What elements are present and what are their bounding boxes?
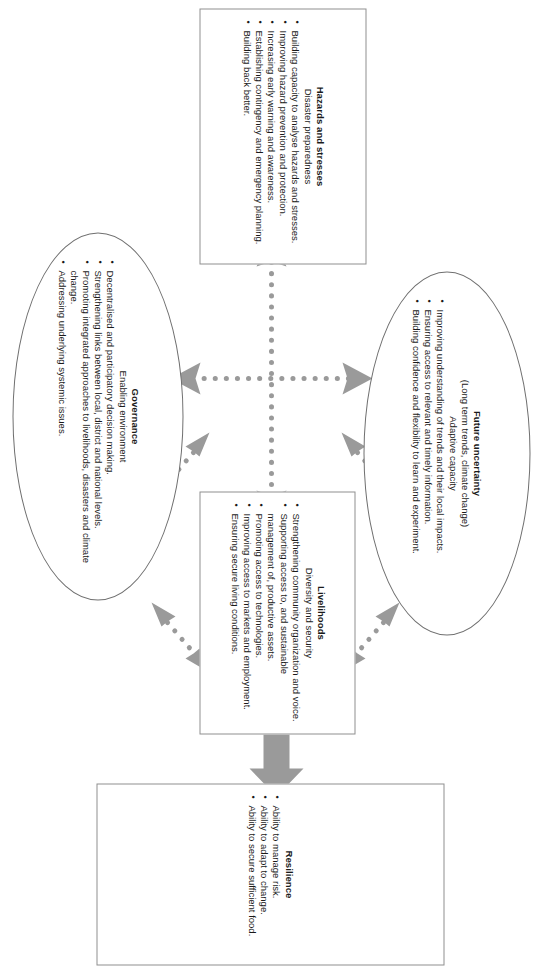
node-future-uncertainty[interactable]: Future uncertainty (Long term trends, cl… <box>363 271 530 635</box>
list-item: Establishing contingency and emergency p… <box>252 19 264 253</box>
list-item: Strengthening links between local, distr… <box>91 259 103 573</box>
list-item: Improving access to markets and employme… <box>240 502 252 723</box>
node-resilience[interactable]: Resilience Ability to manage risk. Abili… <box>96 783 444 965</box>
list-item: Promoting access to technologies. <box>252 502 264 723</box>
list-item: Building confidence and flexibility to l… <box>410 298 422 608</box>
list-item: Addressing underlying systemic issues. <box>54 259 66 573</box>
node-livelihoods[interactable]: Livelihoods Diversity and security Stren… <box>199 491 355 734</box>
governance-subtitle: Enabling environment <box>116 259 128 573</box>
governance-bullets: Decentralised and participatory decision… <box>54 259 115 573</box>
list-item: Ability to manage risk. <box>270 794 282 954</box>
hazards-subtitle: Disaster preparedness <box>301 19 313 253</box>
list-item: Supporting access to, and sustainable ma… <box>264 502 288 723</box>
list-item: Building back better. <box>239 19 251 253</box>
list-item: Ability to adapt to change. <box>257 794 269 954</box>
future-uncertainty-title: Future uncertainty <box>471 298 483 608</box>
list-item: Ability to secure sufficient food. <box>245 794 257 954</box>
governance-title: Governance <box>128 259 140 573</box>
list-item: Improving understanding of trends and th… <box>434 298 446 608</box>
hazards-title: Hazards and stresses <box>313 19 325 253</box>
livelihoods-title: Livelihoods <box>314 502 326 723</box>
list-item: Decentralised and participatory decision… <box>103 259 115 573</box>
future-uncertainty-subtitle: (Long term trends, climate change) <box>459 298 471 608</box>
future-uncertainty-subtitle-2: Adaptive capacity <box>447 298 459 608</box>
list-item: Increasing early warning and awareness. <box>264 19 276 253</box>
list-item: Strengthening community organization and… <box>289 502 301 723</box>
node-hazards-and-stresses[interactable]: Hazards and stresses Disaster preparedne… <box>199 8 366 264</box>
diagram-canvas: Resilience Ability to manage risk. Abili… <box>0 0 541 972</box>
resilience-title: Resilience <box>283 794 295 954</box>
list-item: Promoting integrated approaches to livel… <box>67 259 91 573</box>
hazards-bullets: Building capacity to analyse hazards and… <box>239 19 300 253</box>
livelihoods-bullets: Strengthening community organization and… <box>228 502 301 723</box>
livelihoods-subtitle: Diversity and security <box>302 502 314 723</box>
list-item: Building capacity to analyse hazards and… <box>288 19 300 253</box>
list-item: Ensuring access to relevant and timely i… <box>422 298 434 608</box>
resilience-bullets: Ability to manage risk. Ability to adapt… <box>245 794 281 954</box>
node-governance[interactable]: Governance Enabling environment Decentra… <box>12 232 183 600</box>
list-item: Improving hazard prevention and protecti… <box>276 19 288 253</box>
future-uncertainty-bullets: Improving understanding of trends and th… <box>410 298 446 608</box>
list-item: Ensuring secure living conditions. <box>228 502 240 723</box>
